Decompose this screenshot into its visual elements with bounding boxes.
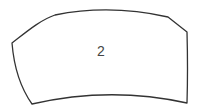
diagram-canvas: 2 <box>0 0 202 108</box>
region-label: 2 <box>0 42 202 60</box>
